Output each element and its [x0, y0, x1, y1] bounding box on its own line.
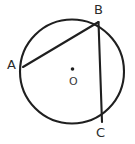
center-label-o: O [69, 76, 78, 87]
main-circle [20, 20, 124, 124]
chord-bc-line [99, 22, 103, 122]
chord-ab-line [23, 22, 99, 67]
geometry-canvas [0, 0, 135, 144]
center-point-dot [71, 67, 75, 71]
point-label-a: A [7, 58, 16, 71]
point-label-b: B [94, 3, 103, 16]
point-label-c: C [96, 126, 105, 139]
geometry-figure: A B C O [0, 0, 135, 144]
